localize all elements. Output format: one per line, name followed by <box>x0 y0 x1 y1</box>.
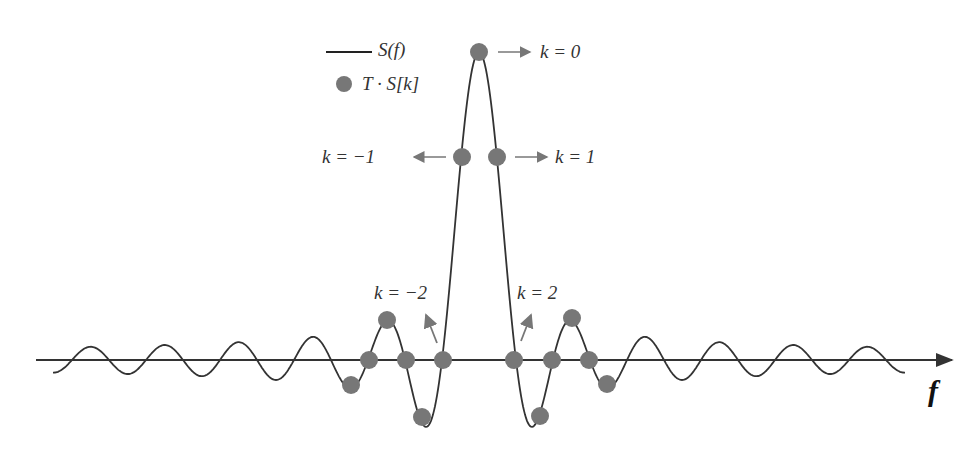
arrow-k-neg2 <box>426 315 437 343</box>
sample-point <box>598 375 616 393</box>
sample-point <box>360 351 378 369</box>
sample-point <box>453 148 471 166</box>
annotation-k-neg1: k = −1 <box>322 147 375 166</box>
axis-label-f: f <box>928 376 938 406</box>
sample-point <box>413 408 431 426</box>
sample-point <box>378 311 396 329</box>
annotation-k-pos1: k = 1 <box>555 147 595 166</box>
sample-point <box>505 351 523 369</box>
legend-marker-label: T · S[k] <box>362 74 419 93</box>
legend-marker-icon <box>336 76 352 92</box>
legend-line-label: S(f) <box>378 40 405 59</box>
sinc-plot <box>0 0 977 451</box>
sample-point <box>531 407 549 425</box>
sample-point <box>563 309 581 327</box>
annotation-k-pos2: k = 2 <box>517 283 557 302</box>
sample-markers <box>342 43 616 426</box>
sample-point <box>488 148 506 166</box>
sample-point <box>434 351 452 369</box>
arrow-k-pos2 <box>521 315 531 341</box>
sample-point <box>397 351 415 369</box>
sample-point <box>470 43 488 61</box>
annotation-k0: k = 0 <box>540 42 580 61</box>
sinc-curve <box>53 52 905 427</box>
sample-point <box>543 351 561 369</box>
annotation-k-neg2: k = −2 <box>374 283 427 302</box>
sample-point <box>342 376 360 394</box>
sample-point <box>580 351 598 369</box>
